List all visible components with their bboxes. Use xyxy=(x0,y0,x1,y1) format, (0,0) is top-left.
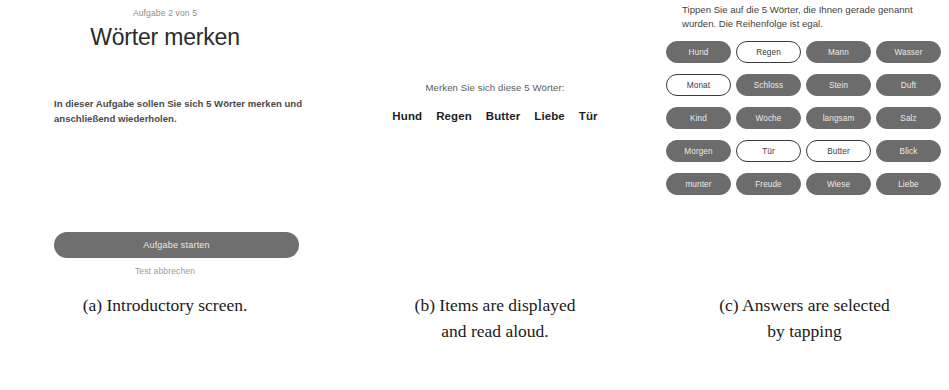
task-description: In dieser Aufgabe sollen Sie sich 5 Wört… xyxy=(54,96,304,126)
word-option-pill[interactable]: Butter xyxy=(806,140,871,162)
word-option-grid: HundRegenMannWasserMonatSchlossSteinDuft… xyxy=(666,41,949,195)
word-option-pill[interactable]: Regen xyxy=(736,41,801,63)
word-option-pill[interactable]: Duft xyxy=(876,74,941,96)
caption-line: (c) Answers are selected xyxy=(660,292,949,318)
memorize-word: Hund xyxy=(392,110,422,122)
caption-row: (a) Introductory screen. (b) Items are d… xyxy=(0,292,949,390)
caption-line: (b) Items are displayed xyxy=(330,292,660,318)
word-option-pill[interactable]: Wasser xyxy=(876,41,941,63)
word-option-pill[interactable]: Stein xyxy=(806,74,871,96)
word-option-pill[interactable]: Salz xyxy=(876,107,941,129)
caption-a: (a) Introductory screen. xyxy=(0,292,330,318)
caption-line: and read aloud. xyxy=(330,318,660,344)
word-option-pill[interactable]: munter xyxy=(666,173,731,195)
task-step-label: Aufgabe 2 von 5 xyxy=(0,8,330,18)
word-option-pill[interactable]: Mann xyxy=(806,41,871,63)
caption-b: (b) Items are displayedand read aloud. xyxy=(330,292,660,344)
word-option-pill[interactable]: Blick xyxy=(876,140,941,162)
word-option-pill[interactable]: Monat xyxy=(666,74,731,96)
word-list: HundRegenButterLiebeTür xyxy=(330,110,660,122)
selection-prompt: Tippen Sie auf die 5 Wörter, die Ihnen g… xyxy=(682,3,930,31)
page-title: Wörter merken xyxy=(0,24,330,51)
memorize-word: Butter xyxy=(486,110,520,122)
word-option-pill[interactable]: Hund xyxy=(666,41,731,63)
word-option-pill[interactable]: langsam xyxy=(806,107,871,129)
word-option-pill[interactable]: Schloss xyxy=(736,74,801,96)
memorize-word: Liebe xyxy=(534,110,565,122)
panel-introductory-screen: Aufgabe 2 von 5 Wörter merken In dieser … xyxy=(0,0,330,285)
word-option-pill[interactable]: Liebe xyxy=(876,173,941,195)
figure-subfigure-row: Aufgabe 2 von 5 Wörter merken In dieser … xyxy=(0,0,949,390)
word-option-pill[interactable]: Freude xyxy=(736,173,801,195)
caption-line: (a) Introductory screen. xyxy=(0,292,330,318)
caption-line: by tapping xyxy=(660,318,949,344)
cancel-test-link[interactable]: Test abbrechen xyxy=(0,266,330,276)
memorize-word: Tür xyxy=(579,110,598,122)
panel-items-displayed: Merken Sie sich diese 5 Wörter: HundRege… xyxy=(330,0,660,285)
start-task-button[interactable]: Aufgabe starten xyxy=(54,232,299,258)
memorize-word: Regen xyxy=(436,110,472,122)
panel-answer-selection: Tippen Sie auf die 5 Wörter, die Ihnen g… xyxy=(660,0,949,285)
word-option-pill[interactable]: Woche xyxy=(736,107,801,129)
word-option-pill[interactable]: Tür xyxy=(736,140,801,162)
memorize-prompt: Merken Sie sich diese 5 Wörter: xyxy=(330,82,660,93)
word-option-pill[interactable]: Wiese xyxy=(806,173,871,195)
word-option-pill[interactable]: Morgen xyxy=(666,140,731,162)
caption-c: (c) Answers are selectedby tapping xyxy=(660,292,949,344)
word-option-pill[interactable]: Kind xyxy=(666,107,731,129)
